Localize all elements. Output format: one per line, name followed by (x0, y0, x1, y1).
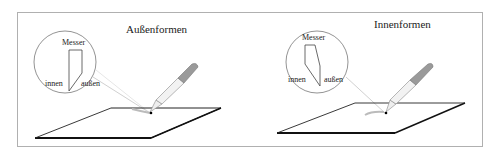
inner-label: innen (288, 75, 306, 84)
inner-label: innen (45, 79, 63, 88)
panel-inner-shapes: Innenformen Messer innen außen (277, 18, 465, 133)
knife-label: Messer (302, 33, 325, 42)
material-sheet (35, 108, 221, 138)
outer-label: außen (324, 75, 343, 84)
cutting-diagram: Außenformen Messer innen außen Innenform… (0, 0, 501, 158)
panel-title: Innenformen (374, 18, 431, 30)
leader-line (96, 70, 150, 113)
leader-line (346, 77, 385, 113)
cut-path (365, 112, 384, 115)
panel-title: Außenformen (126, 23, 188, 35)
knife-label: Messer (62, 38, 85, 47)
cutter-tool-icon (385, 63, 433, 114)
cutter-tool-icon (150, 63, 198, 114)
outer-label: außen (81, 79, 100, 88)
panel-outer-shapes: Außenformen Messer innen außen (34, 23, 221, 138)
